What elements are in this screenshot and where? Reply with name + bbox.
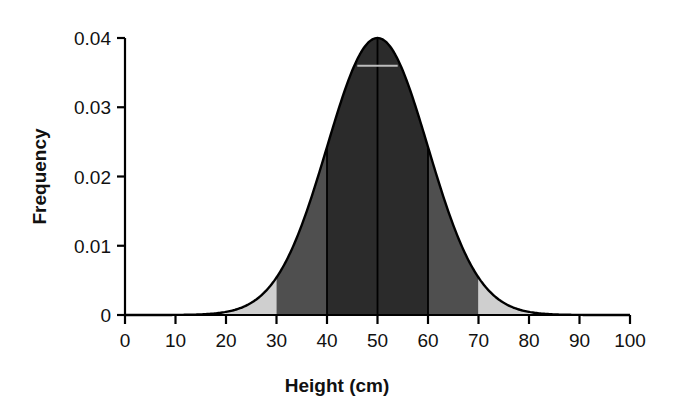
- x-tick-label-20: 20: [215, 330, 236, 351]
- shaded-band-70-80: [479, 28, 530, 317]
- x-tick-label-70: 70: [468, 330, 489, 351]
- x-axis-title: Height (cm): [285, 375, 390, 396]
- y-tick-label-0.03: 0.03: [74, 97, 111, 118]
- normal-distribution-chart: 00.010.020.030.04 0102030405060708090100…: [0, 0, 674, 404]
- y-tick-label-0.01: 0.01: [74, 236, 111, 257]
- y-axis-tick-labels: 00.010.020.030.04: [74, 28, 111, 326]
- x-tick-label-50: 50: [367, 330, 388, 351]
- y-axis-title: Frequency: [29, 128, 50, 225]
- chart-figure: 00.010.020.030.04 0102030405060708090100…: [0, 0, 674, 404]
- x-tick-label-100: 100: [614, 330, 646, 351]
- x-tick-label-80: 80: [518, 330, 539, 351]
- y-tick-label-0: 0: [100, 305, 111, 326]
- x-tick-label-10: 10: [165, 330, 186, 351]
- y-axis-ticks: [117, 38, 125, 315]
- x-tick-label-90: 90: [569, 330, 590, 351]
- y-tick-label-0.04: 0.04: [74, 28, 111, 49]
- x-axis-tick-labels: 0102030405060708090100: [120, 330, 646, 351]
- y-tick-label-0.02: 0.02: [74, 167, 111, 188]
- x-tick-label-60: 60: [417, 330, 438, 351]
- x-tick-label-40: 40: [316, 330, 337, 351]
- shaded-band-20-30: [226, 28, 277, 317]
- x-tick-label-30: 30: [266, 330, 287, 351]
- x-axis-ticks: [125, 315, 630, 324]
- x-tick-label-0: 0: [120, 330, 131, 351]
